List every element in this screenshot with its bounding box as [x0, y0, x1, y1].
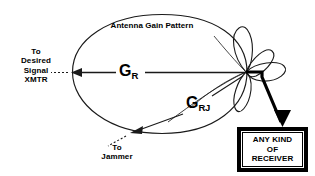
gain-main-subscript: R [131, 70, 138, 81]
to-desired-signal-xmtr-caption: To Desired Signal XMTR [6, 47, 66, 85]
receiver-box-inner: ANY KIND OF RECEIVER [242, 132, 303, 167]
caption-line: To [88, 143, 146, 152]
gain-main-symbol: G [119, 62, 131, 79]
gain-jammer-label: GRJ [186, 94, 210, 112]
gain-jammer-subscript: RJ [198, 102, 210, 113]
receiver-line: ANY KIND [253, 135, 292, 145]
caption-line: To [6, 47, 66, 56]
caption-line: XMTR [6, 75, 66, 84]
antenna-main-lobe [73, 15, 248, 134]
caption-line: Jammer [88, 152, 146, 161]
gain-main-label: GR [119, 62, 138, 80]
to-jammer-caption: To Jammer [88, 143, 146, 162]
antenna-side-lobe-down [234, 72, 251, 112]
receiver-box: ANY KIND OF RECEIVER [237, 127, 308, 172]
caption-line: Signal [6, 66, 66, 75]
receiver-arrowhead [274, 110, 291, 127]
receiver-line: RECEIVER [252, 154, 294, 164]
receiver-line: OF [267, 145, 278, 155]
gain-jammer-arrow-shaft-upper [212, 76, 243, 96]
gain-jammer-arrow-shaft-lower [139, 114, 183, 130]
pattern-title: Antenna Gain Pattern [92, 21, 212, 30]
gain-jammer-symbol: G [186, 94, 198, 111]
caption-line: Desired [6, 56, 66, 65]
antenna-gain-diagram: Antenna Gain Pattern To Desired Signal X… [0, 0, 315, 176]
lobe-skirt-upper-left [214, 36, 246, 72]
